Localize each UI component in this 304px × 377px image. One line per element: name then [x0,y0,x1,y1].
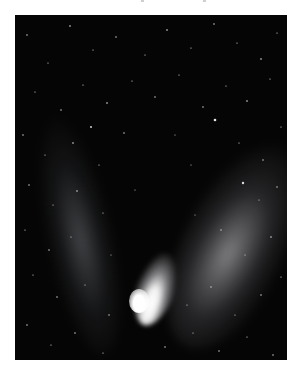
comet-nucleus [129,289,149,313]
comet-photograph [15,15,287,360]
text-fragment [203,0,206,2]
cropped-caption-fragment [0,0,304,6]
text-fragment [141,0,144,2]
